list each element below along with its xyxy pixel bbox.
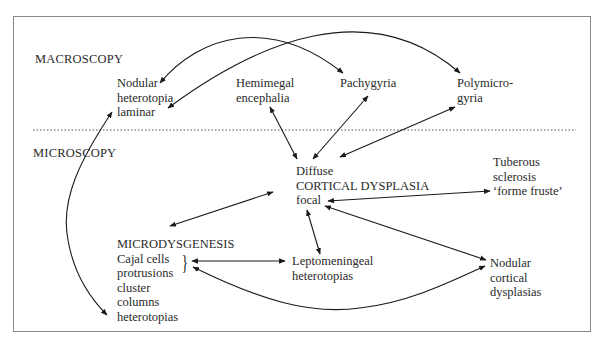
section-label-macroscopy: MACROSCOPY xyxy=(35,52,123,67)
node-line: gyria xyxy=(457,91,513,106)
node-line: laminar xyxy=(117,105,173,120)
node-line: heterotopia xyxy=(117,91,173,106)
node-line: sclerosis xyxy=(493,170,563,185)
node-nodular-cortical: Nodular cortical dysplasias xyxy=(490,256,541,300)
node-cortical-dysplasia: Diffuse CORTICAL DYSPLASIA focal xyxy=(296,164,429,208)
node-line: MICRODYSGENESIS xyxy=(117,237,234,252)
node-microdysgenesis: MICRODYSGENESIS Cajal cells protrusions … xyxy=(117,237,234,324)
node-line: heterotopias xyxy=(292,269,373,284)
node-hemimegalencephalia: Hemimegal encephalia xyxy=(236,76,294,105)
edge-laminar-heterotopias xyxy=(66,112,112,315)
edge-microdysgenesis-diffuse xyxy=(170,192,273,226)
node-line: protrusions xyxy=(117,266,234,281)
node-line: encephalia xyxy=(236,91,294,106)
edge-focal-nodular-cortical xyxy=(325,206,486,260)
node-nodular-heterotopia: Nodular heterotopia laminar xyxy=(117,76,173,120)
edge-polymicrogyria-diffuse xyxy=(340,107,455,157)
node-line: CORTICAL DYSPLASIA xyxy=(296,179,429,194)
edge-pachygyria-diffuse xyxy=(313,96,368,159)
node-line: focal xyxy=(296,193,429,208)
edge-laminar-polymicrogyria xyxy=(168,32,460,108)
node-line: columns xyxy=(117,295,234,310)
brace-icon: } xyxy=(181,252,188,272)
edge-hemimegal-diffuse xyxy=(270,107,297,159)
node-line: cluster xyxy=(117,281,234,296)
node-pachygyria: Pachygyria xyxy=(340,76,396,91)
node-line: Cajal cells xyxy=(117,252,234,267)
node-polymicrogyria: Polymicro- gyria xyxy=(457,76,513,105)
node-line: heterotopias xyxy=(117,310,234,325)
node-line: ‘forme fruste’ xyxy=(493,184,563,199)
node-line: Hemimegal xyxy=(236,76,294,91)
node-line: Nodular xyxy=(490,256,541,271)
node-line: Diffuse xyxy=(296,164,429,179)
node-line: Polymicro- xyxy=(457,76,513,91)
node-line: cortical xyxy=(490,271,541,286)
node-line: Pachygyria xyxy=(340,76,396,91)
section-label-microscopy: MICROSCOPY xyxy=(33,146,116,161)
node-line: Leptomeningeal xyxy=(292,254,373,269)
node-line: dysplasias xyxy=(490,285,541,300)
node-line: Tuberous xyxy=(493,155,563,170)
node-tuberous-sclerosis: Tuberous sclerosis ‘forme fruste’ xyxy=(493,155,563,199)
edge-focal-leptomeningeal xyxy=(307,210,320,254)
node-line: Nodular xyxy=(117,76,173,91)
node-leptomeningeal: Leptomeningeal heterotopias xyxy=(292,254,373,283)
